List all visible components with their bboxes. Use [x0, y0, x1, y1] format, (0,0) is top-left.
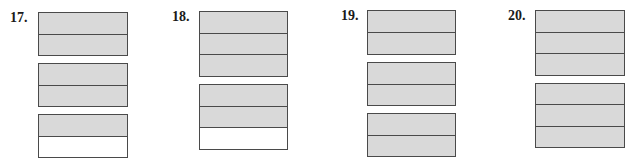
shaded-part — [536, 11, 624, 32]
fraction-bar — [535, 83, 625, 148]
shaded-part — [368, 114, 455, 135]
fraction-bar — [38, 114, 128, 158]
shaded-part — [39, 34, 127, 56]
fraction-bar — [199, 11, 288, 77]
fraction-bar — [535, 10, 625, 76]
fraction-bar — [367, 10, 456, 55]
shaded-part — [200, 85, 287, 106]
shaded-part — [200, 106, 287, 128]
shaded-part — [368, 84, 455, 106]
problem-number: 20. — [508, 9, 526, 23]
shaded-part — [39, 13, 127, 34]
shaded-part — [368, 63, 455, 84]
shaded-part — [200, 12, 287, 33]
fraction-bar — [367, 113, 456, 157]
problem-number: 19. — [341, 9, 359, 23]
shaded-part — [368, 135, 455, 157]
shaded-part — [39, 115, 127, 136]
shaded-part — [368, 11, 455, 32]
shaded-part — [368, 32, 455, 54]
unshaded-part — [200, 127, 287, 149]
fraction-bar — [38, 12, 128, 56]
unshaded-part — [39, 136, 127, 158]
fraction-bar — [367, 62, 456, 106]
shaded-part — [39, 85, 127, 107]
fraction-bar — [199, 84, 288, 150]
shaded-part — [536, 84, 624, 104]
shaded-part — [200, 54, 287, 76]
problem-number: 18. — [172, 10, 190, 24]
shaded-part — [536, 126, 624, 147]
shaded-part — [536, 104, 624, 125]
shaded-part — [39, 64, 127, 85]
shaded-part — [536, 32, 624, 54]
problem-number: 17. — [10, 11, 28, 25]
shaded-part — [536, 53, 624, 75]
fraction-bar — [38, 63, 128, 107]
shaded-part — [200, 33, 287, 55]
